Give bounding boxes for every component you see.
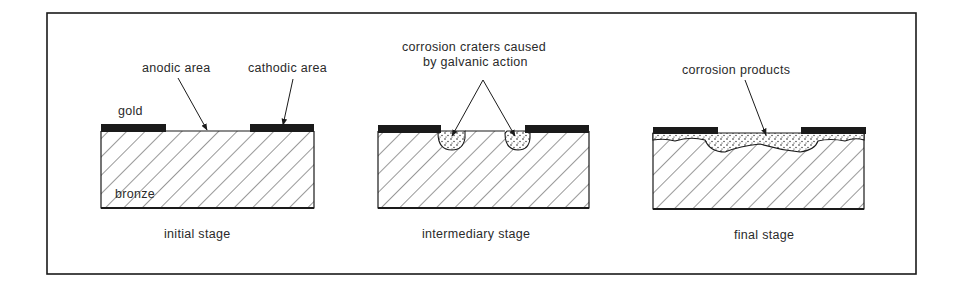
label-gold: gold [118, 104, 143, 118]
panel-initial-stage: anodic area cathodic area gold bronze in… [101, 61, 327, 241]
galvanic-corrosion-diagram: anodic area cathodic area gold bronze in… [0, 0, 963, 292]
caption-intermediary-stage: intermediary stage [422, 227, 530, 241]
gold-layer-left [653, 127, 718, 134]
products-arrow [745, 80, 766, 135]
gold-layer-left [101, 124, 166, 132]
crater-arrow-left [452, 80, 483, 136]
anodic-arrow [178, 78, 207, 130]
gold-layer-right [801, 127, 866, 134]
label-anodic-area: anodic area [142, 61, 211, 75]
gold-layer-right [525, 125, 589, 133]
label-cathodic-area: cathodic area [248, 61, 327, 75]
bronze-substrate [378, 131, 589, 208]
label-corrosion-products: corrosion products [682, 63, 790, 77]
crater-arrow-right [483, 80, 515, 136]
label-craters-line1: corrosion craters caused [402, 40, 546, 54]
gold-layer-left [378, 125, 441, 133]
caption-initial-stage: initial stage [164, 227, 230, 241]
panel-final-stage: corrosion products final stage [653, 63, 866, 242]
panel-intermediary-stage: corrosion craters caused by galvanic act… [378, 40, 589, 241]
gold-layer-right [250, 124, 314, 132]
caption-final-stage: final stage [734, 228, 794, 242]
cathodic-arrow [283, 79, 293, 125]
label-craters-line2: by galvanic action [423, 55, 528, 69]
label-bronze: bronze [115, 187, 155, 201]
